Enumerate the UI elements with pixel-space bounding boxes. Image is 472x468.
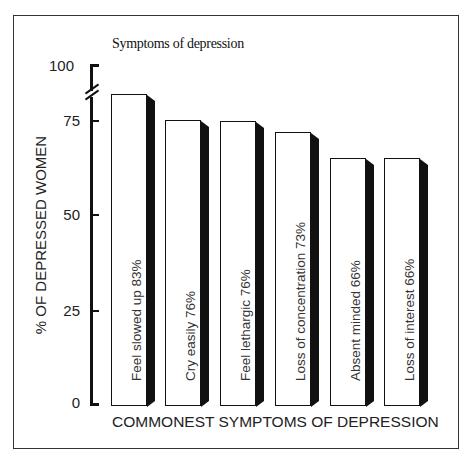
y-axis-label: % OF DEPRESSED WOMEN: [32, 136, 49, 334]
y-tick-25: [92, 310, 99, 312]
y-tick-label-100: 100: [34, 57, 74, 74]
bar-feel-slowed-up: Feel slowed up 83%: [111, 94, 147, 406]
bar-label: Feel slowed up 83%: [129, 259, 144, 381]
y-axis-top-cap: [90, 64, 99, 67]
bar-cry-easily: Cry easily 76%: [165, 120, 201, 406]
bar-label: Loss of interest 66%: [402, 259, 417, 381]
bar-loss-of-concentration: Loss of concentration 73%: [275, 132, 311, 406]
bar-loss-of-interest: Loss of interest 66%: [384, 158, 420, 406]
y-tick-label-75: 75: [40, 112, 80, 129]
x-axis-label: COMMONEST SYMPTOMS OF DEPRESSION: [112, 413, 439, 431]
y-tick-50: [92, 214, 99, 216]
bar-feel-lethargic: Feel lethargic 76%: [220, 121, 256, 406]
bar-absent-minded: Absent minded 66%: [330, 158, 366, 406]
y-tick-75: [92, 120, 99, 122]
chart-title: Symptoms of depression: [112, 36, 244, 52]
bar-label: Cry easily 76%: [183, 291, 198, 381]
bar-label: Absent minded 66%: [348, 260, 363, 381]
y-axis: [90, 64, 93, 406]
y-axis-bottom-cap: [90, 403, 99, 406]
y-tick-label-0: 0: [40, 394, 80, 411]
bar-label: Loss of concentration 73%: [293, 222, 308, 381]
bar-label: Feel lethargic 76%: [238, 269, 253, 381]
